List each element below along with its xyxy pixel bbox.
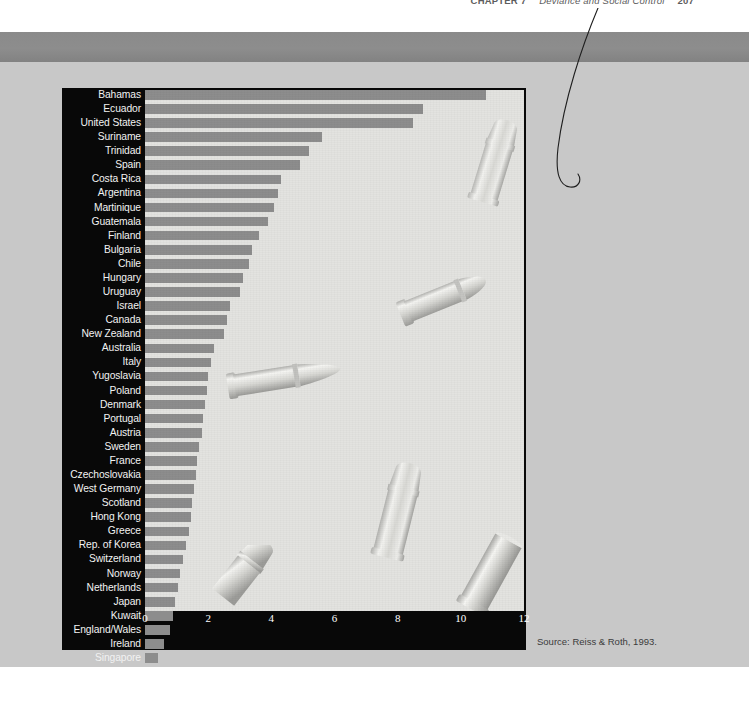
page-root: CHAPTER 7 Deviance and Social Control 20… <box>0 0 749 707</box>
x-axis-tick-label: 12 <box>519 613 530 624</box>
bar <box>145 541 186 551</box>
bar <box>145 259 249 269</box>
bar-track <box>145 524 524 538</box>
bar <box>145 583 178 593</box>
bar-row-label: Kuwait <box>62 609 142 623</box>
bar-row-label: Canada <box>62 313 142 327</box>
bar-row-label: Sweden <box>62 440 142 454</box>
bar-track <box>145 468 524 482</box>
bar-row: Israel <box>62 299 526 313</box>
bar-row-label: Chile <box>62 257 142 271</box>
bar-track <box>145 384 524 398</box>
bar-row: Uruguay <box>62 285 526 299</box>
bar-row-label: Norway <box>62 567 142 581</box>
bar <box>145 456 197 466</box>
bar-track <box>145 187 524 201</box>
bar-row-label: France <box>62 454 142 468</box>
bar-row-label: Italy <box>62 355 142 369</box>
bar <box>145 372 208 382</box>
bar-row-label: Israel <box>62 299 142 313</box>
bar-row-label: Spain <box>62 158 142 172</box>
bar-row: United States <box>62 116 526 130</box>
bar <box>145 231 259 241</box>
bar-row: Netherlands <box>62 581 526 595</box>
bar-track <box>145 539 524 553</box>
bar-track <box>145 440 524 454</box>
bar-track <box>145 581 524 595</box>
bar-row-label: Singapore <box>62 651 142 665</box>
bar <box>145 329 224 339</box>
bar <box>145 358 211 368</box>
bar-row-label: New Zealand <box>62 327 142 341</box>
bar-track <box>145 327 524 341</box>
bar-track <box>145 412 524 426</box>
bar-row: Spain <box>62 158 526 172</box>
bar-row-label: Switzerland <box>62 553 142 567</box>
bar <box>145 569 180 579</box>
bar-row-label: Bulgaria <box>62 243 142 257</box>
bar-row: France <box>62 454 526 468</box>
bar-row-label: Bahamas <box>62 88 142 102</box>
bar-track <box>145 595 524 609</box>
bar <box>145 245 252 255</box>
bar-row: Canada <box>62 313 526 327</box>
bar-rows: BahamasEcuadorUnited StatesSurinameTrini… <box>62 88 526 609</box>
bar <box>145 386 207 396</box>
x-axis-tick-label: 8 <box>395 613 401 624</box>
bar <box>145 217 268 227</box>
bar-row: Trinidad <box>62 144 526 158</box>
bar-track <box>145 313 524 327</box>
bar-row: Czechoslovakia <box>62 468 526 482</box>
bar-row: Guatemala <box>62 215 526 229</box>
bar-row: West Germany <box>62 482 526 496</box>
bar-row-label: Czechoslovakia <box>62 468 142 482</box>
bar-row: Greece <box>62 524 526 538</box>
bar <box>145 301 230 311</box>
bar-track <box>145 510 524 524</box>
running-head-chapter: CHAPTER 7 <box>471 0 527 6</box>
bar-track <box>145 567 524 581</box>
bar-track <box>145 341 524 355</box>
bar <box>145 653 158 663</box>
bar-track <box>145 215 524 229</box>
bar <box>145 639 164 649</box>
bar <box>145 442 199 452</box>
bar <box>145 104 423 114</box>
bar-row-label: Rep. of Korea <box>62 539 142 553</box>
bar-row-label: Austria <box>62 426 142 440</box>
bar-row: Singapore <box>62 651 526 665</box>
bar <box>145 90 486 100</box>
bar-row: Austria <box>62 426 526 440</box>
bar-row: Martinique <box>62 201 526 215</box>
figure-panel: BahamasEcuadorUnited StatesSurinameTrini… <box>62 88 526 650</box>
bar-row: Bahamas <box>62 88 526 102</box>
bar-track <box>145 130 524 144</box>
bar-row: Sweden <box>62 440 526 454</box>
bar-track <box>145 144 524 158</box>
bar-row: Denmark <box>62 398 526 412</box>
bar-row-label: Japan <box>62 595 142 609</box>
bar-track <box>145 102 524 116</box>
bar-row-label: Uruguay <box>62 285 142 299</box>
x-axis-tick-label: 0 <box>142 613 148 624</box>
bar-track <box>145 651 524 665</box>
bar-row-label: Finland <box>62 229 142 243</box>
bar-row-label: Argentina <box>62 187 142 201</box>
bar-row: Norway <box>62 567 526 581</box>
bar-row-label: Martinique <box>62 201 142 215</box>
bar <box>145 498 192 508</box>
running-head-title: Deviance and Social Control <box>539 0 664 6</box>
bar-row-label: Costa Rica <box>62 172 142 186</box>
bar <box>145 344 214 354</box>
bar-track <box>145 398 524 412</box>
x-axis-tick-label: 4 <box>269 613 275 624</box>
bar-row-label: Netherlands <box>62 581 142 595</box>
bar-row: Suriname <box>62 130 526 144</box>
bar-row-label: England/Wales <box>62 623 142 637</box>
bar-row-label: Ecuador <box>62 102 142 116</box>
chapter-rule-band <box>0 32 749 62</box>
bar-row: Yugoslavia <box>62 370 526 384</box>
bar-row: Finland <box>62 229 526 243</box>
bar-track <box>145 271 524 285</box>
bar-row-label: Australia <box>62 341 142 355</box>
